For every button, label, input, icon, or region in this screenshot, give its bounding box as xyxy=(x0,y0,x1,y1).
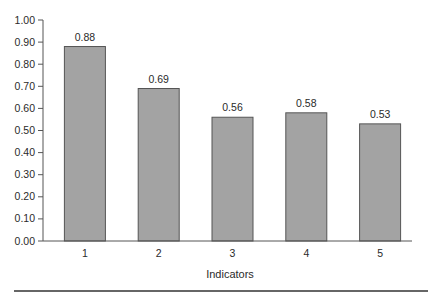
x-tick-label: 4 xyxy=(303,247,309,259)
y-tick-label: 0.90 xyxy=(15,36,36,48)
y-tick-label: 0.40 xyxy=(15,146,36,158)
bars: 0.880.690.560.580.53 xyxy=(64,31,400,241)
bar-5 xyxy=(360,124,401,241)
bar-1 xyxy=(64,47,105,241)
y-tick-label: 1.00 xyxy=(15,14,36,26)
y-tick-label: 0.10 xyxy=(15,212,36,224)
bar-value-label: 0.53 xyxy=(370,108,391,120)
y-axis: 0.000.100.200.300.400.500.600.700.800.90… xyxy=(15,14,43,247)
y-tick-label: 0.50 xyxy=(15,124,36,136)
y-tick-label: 0.00 xyxy=(15,235,36,247)
bar-value-label: 0.69 xyxy=(148,73,169,85)
x-axis-title: Indicators xyxy=(206,268,254,280)
y-tick-label: 0.60 xyxy=(15,102,36,114)
x-tick-label: 2 xyxy=(156,247,162,259)
y-tick-label: 0.20 xyxy=(15,190,36,202)
bar-chart: 0.000.100.200.300.400.500.600.700.800.90… xyxy=(0,0,428,293)
y-tick-label: 0.80 xyxy=(15,58,36,70)
bar-value-label: 0.58 xyxy=(296,97,317,109)
x-axis: 12345 xyxy=(43,241,412,259)
x-tick-label: 3 xyxy=(230,247,236,259)
bar-value-label: 0.56 xyxy=(222,101,243,113)
y-tick-label: 0.30 xyxy=(15,168,36,180)
x-tick-label: 5 xyxy=(377,247,383,259)
bar-4 xyxy=(286,113,327,241)
y-tick-label: 0.70 xyxy=(15,80,36,92)
x-tick-label: 1 xyxy=(82,247,88,259)
bar-value-label: 0.88 xyxy=(75,31,96,43)
bar-2 xyxy=(138,89,179,241)
bar-3 xyxy=(212,117,253,241)
